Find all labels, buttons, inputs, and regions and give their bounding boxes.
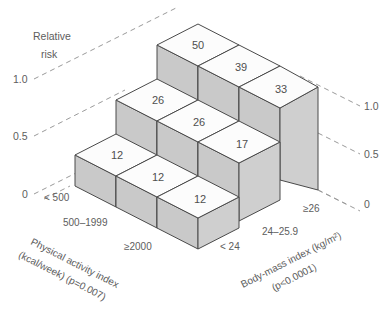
right-z-tick-1: 1.0 bbox=[364, 100, 379, 112]
left-z-tick-labels: 1.0 0.5 0 bbox=[13, 73, 28, 200]
bar-value-label: 39 bbox=[235, 61, 247, 73]
left-z-tick-1: 1.0 bbox=[13, 73, 28, 85]
bar-value-label: 50 bbox=[192, 39, 204, 51]
left-axis-dash-0 bbox=[34, 172, 78, 194]
left-axis-dash-05 bbox=[34, 90, 125, 136]
x-category-ge2000: ≥2000 bbox=[124, 241, 152, 252]
bar-value-label: 12 bbox=[152, 171, 164, 183]
right-z-tick-0: 0 bbox=[364, 198, 370, 210]
y-axis-title: Body-mass index (kg/m²) (p<0.0001) bbox=[239, 230, 351, 305]
x-category-lt500: < 500 bbox=[44, 192, 70, 203]
right-z-tick-05: 0.5 bbox=[364, 148, 379, 160]
right-z-tick-labels: 1.0 0.5 0 bbox=[364, 100, 379, 210]
x-axis-title: Physical activity index (kcal/week) (p=0… bbox=[17, 234, 121, 305]
bar-value-label: 33 bbox=[275, 83, 287, 95]
bar-value-label: 26 bbox=[152, 94, 164, 106]
relative-risk-3d-bar-chart: 50 39 33 26 26 bbox=[0, 0, 391, 325]
y-category-lt24: < 24 bbox=[220, 241, 240, 252]
z-axis-title-line1: Relative bbox=[33, 30, 71, 42]
isometric-chart-svg: 50 39 33 26 26 bbox=[0, 0, 391, 325]
y-category-24to259: 24–25.9 bbox=[262, 226, 299, 237]
right-axis-dash-05 bbox=[318, 133, 360, 154]
base-dash-right bbox=[318, 190, 346, 204]
z-axis-title: Relative risk bbox=[33, 30, 71, 60]
y-category-ge26: ≥26 bbox=[303, 203, 320, 214]
x-category-500to1999: 500–1999 bbox=[63, 217, 108, 228]
bar-value-label: 26 bbox=[193, 116, 205, 128]
left-z-tick-0: 0 bbox=[22, 188, 28, 200]
z-axis-title-line2: risk bbox=[41, 48, 58, 60]
bar-value-label: 12 bbox=[194, 193, 206, 205]
left-z-tick-05: 0.5 bbox=[13, 130, 28, 142]
bar-value-label: 12 bbox=[111, 149, 123, 161]
right-axis-dash-0 bbox=[318, 190, 360, 211]
bar-value-label: 17 bbox=[236, 138, 248, 150]
left-axis-dash-10 bbox=[34, 7, 178, 79]
